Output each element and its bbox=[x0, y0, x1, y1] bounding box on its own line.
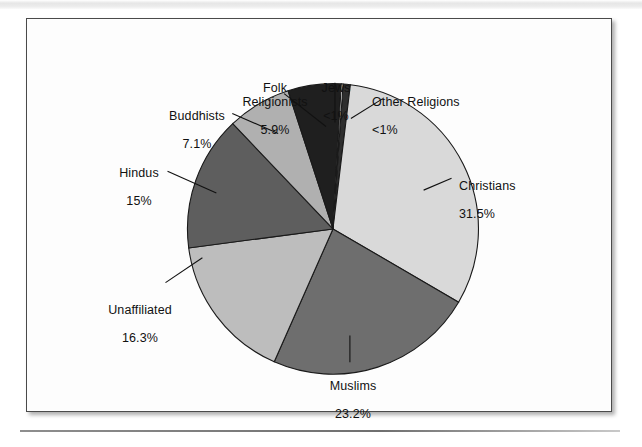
label-jews-value: <1% bbox=[323, 109, 349, 123]
pie-chart: Folk Religionists 5.9% Jews <1% Other Re… bbox=[27, 19, 611, 411]
label-christians: Christians 31.5% bbox=[459, 165, 569, 221]
label-buddhists-title: Buddhists bbox=[169, 109, 225, 123]
label-hindus-title: Hindus bbox=[119, 166, 159, 180]
label-folk-religionists-value: 5.9% bbox=[261, 123, 290, 137]
label-muslims-title: Muslims bbox=[330, 379, 377, 393]
label-jews: Jews <1% bbox=[305, 67, 367, 123]
label-buddhists-value: 7.1% bbox=[183, 137, 212, 151]
label-christians-title: Christians bbox=[459, 179, 516, 193]
label-hindus-value: 15% bbox=[126, 194, 151, 208]
page-bottom-caption bbox=[22, 437, 442, 447]
label-unaffiliated-value: 16.3% bbox=[122, 331, 158, 345]
label-jews-title: Jews bbox=[322, 81, 351, 95]
page-top-band bbox=[0, 0, 642, 9]
label-other-religions-title: Other Religions bbox=[372, 95, 460, 109]
label-muslims: Muslims 23.2% bbox=[315, 365, 391, 421]
figure-frame: Folk Religionists 5.9% Jews <1% Other Re… bbox=[26, 18, 612, 412]
label-other-religions: Other Religions <1% bbox=[372, 81, 512, 137]
label-buddhists: Buddhists 7.1% bbox=[157, 95, 237, 151]
label-other-religions-value: <1% bbox=[372, 123, 398, 137]
label-muslims-value: 23.2% bbox=[335, 407, 371, 421]
page-bottom-rule bbox=[20, 430, 620, 432]
label-folk-religionists-title: Folk Religionists bbox=[242, 81, 307, 109]
label-unaffiliated-title: Unaffiliated bbox=[108, 303, 172, 317]
label-unaffiliated: Unaffiliated 16.3% bbox=[92, 289, 188, 345]
label-hindus: Hindus 15% bbox=[105, 152, 173, 208]
label-christians-value: 31.5% bbox=[459, 207, 495, 221]
